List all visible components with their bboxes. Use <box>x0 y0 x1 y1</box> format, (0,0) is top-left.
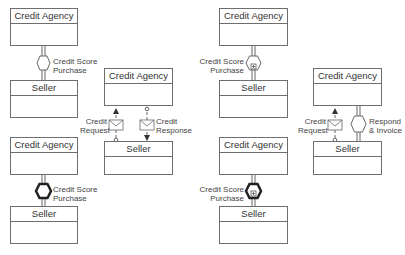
pool-title: Credit Agency <box>220 138 287 153</box>
call-conversation-hexagon-icon <box>36 184 51 198</box>
conversation-label: Respond& Invoice <box>369 117 402 135</box>
pool-credit-agency[interactable]: Credit Agency <box>219 137 288 175</box>
pool-title: Seller <box>105 142 172 157</box>
arrow-up-icon <box>113 108 119 114</box>
envelope-icon <box>140 120 154 130</box>
conversation-hexagon-icon <box>37 56 50 70</box>
pool-title: Seller <box>11 207 77 222</box>
plus-marker-icon <box>251 191 256 196</box>
pool-seller[interactable]: Seller <box>10 206 78 244</box>
pool-seller[interactable]: Seller <box>104 141 173 175</box>
message-label: CreditResponse <box>156 117 192 135</box>
pool-credit-agency[interactable]: Credit Agency <box>10 137 78 175</box>
arrow-up-icon <box>332 108 338 114</box>
pool-credit-agency[interactable]: Credit Agency <box>10 8 78 46</box>
pool-title: Credit Agency <box>314 69 381 84</box>
plus-marker-icon <box>251 64 256 69</box>
conversation-label: Credit ScorePurchase <box>53 57 97 75</box>
pool-credit-agency[interactable]: Credit Agency <box>219 8 288 46</box>
conversation-label: Credit ScorePurchase <box>53 185 97 203</box>
message-label: CreditRequest <box>80 117 107 135</box>
pool-seller[interactable]: Seller <box>10 80 78 118</box>
pool-title: Credit Agency <box>220 9 287 24</box>
pool-title: Credit Agency <box>11 9 77 24</box>
pool-seller[interactable]: Seller <box>219 206 288 244</box>
pool-credit-agency[interactable]: Credit Agency <box>313 68 382 106</box>
conversation-hexagon-icon <box>351 116 366 132</box>
pool-title: Seller <box>11 81 77 96</box>
conversation-label: Credit ScorePurchase <box>196 185 244 203</box>
pool-seller[interactable]: Seller <box>313 141 382 175</box>
envelope-icon <box>328 120 342 130</box>
message-origin-icon <box>145 107 149 111</box>
pool-credit-agency[interactable]: Credit Agency <box>104 68 173 106</box>
pool-title: Credit Agency <box>11 138 77 153</box>
envelope-icon <box>109 120 123 130</box>
pool-title: Seller <box>314 142 381 157</box>
conversation-label: Credit ScorePurchase <box>196 57 244 75</box>
pool-seller[interactable]: Seller <box>219 80 288 118</box>
pool-title: Seller <box>220 81 287 96</box>
pool-title: Credit Agency <box>105 69 172 84</box>
pool-title: Seller <box>220 207 287 222</box>
message-label: CreditRequest <box>298 117 326 135</box>
